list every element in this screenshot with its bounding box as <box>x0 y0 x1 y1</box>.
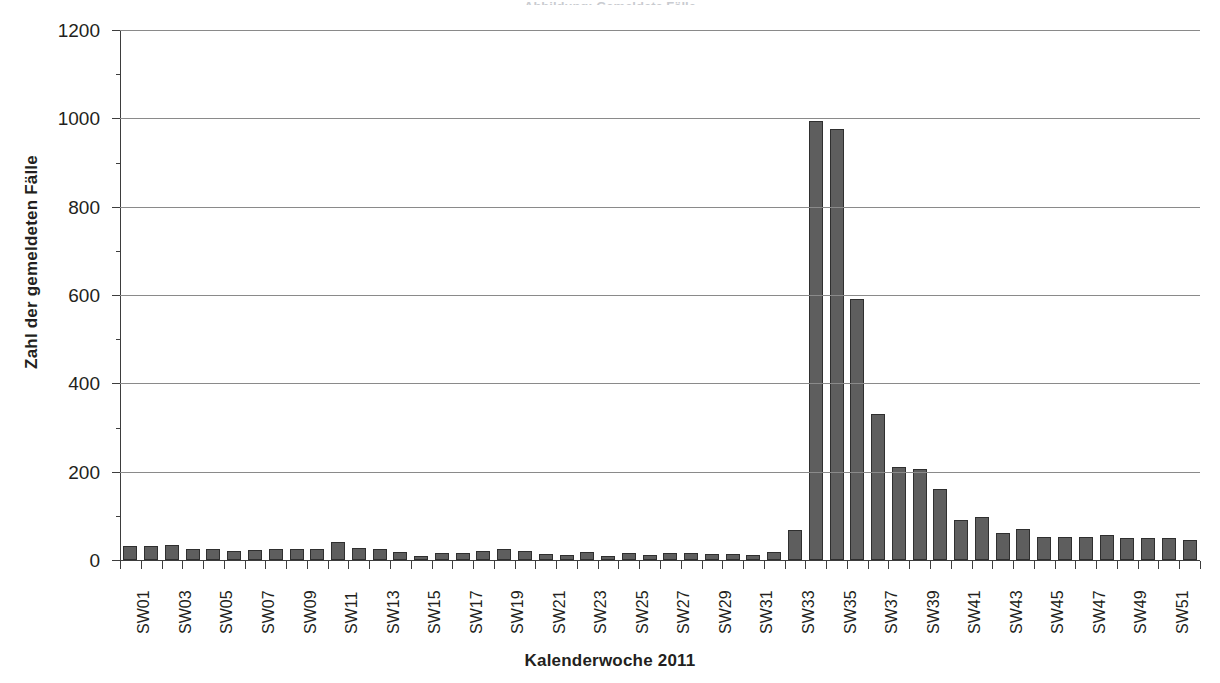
x-axis-tick <box>743 561 744 569</box>
gridline <box>120 30 1200 31</box>
bar <box>850 299 864 560</box>
x-axis-tick <box>1200 561 1201 569</box>
x-axis-tick-label: SW09 <box>303 564 319 634</box>
y-axis-minor-tick <box>116 74 120 75</box>
x-axis-tick <box>120 561 121 569</box>
x-axis-tick <box>1158 561 1159 569</box>
gridline <box>120 383 1200 384</box>
bar <box>248 550 262 560</box>
bar <box>518 551 532 560</box>
y-axis-tick-label: 400 <box>0 374 100 393</box>
y-axis-minor-tick <box>116 163 120 164</box>
plot-area <box>120 30 1200 561</box>
bar <box>1100 535 1114 560</box>
bar <box>123 546 137 560</box>
y-axis-tick-labels: 020040060080010001200 <box>0 30 112 561</box>
bar <box>1162 538 1176 560</box>
x-axis-tick <box>702 561 703 569</box>
bar <box>913 469 927 560</box>
y-axis-tick <box>112 560 120 561</box>
x-axis-tick <box>203 561 204 569</box>
bar <box>809 121 823 560</box>
bar <box>539 554 553 560</box>
gridline <box>120 207 1200 208</box>
bar <box>393 552 407 560</box>
x-axis-tick-label: SW45 <box>1050 564 1066 634</box>
bar <box>227 551 241 560</box>
x-axis-tick-label: SW05 <box>219 564 235 634</box>
y-axis-tick-label: 1000 <box>0 109 100 128</box>
y-axis-tick <box>112 383 120 384</box>
bar <box>435 553 449 560</box>
x-axis-tick <box>868 561 869 569</box>
bar <box>1141 538 1155 560</box>
x-axis-tick <box>162 561 163 569</box>
y-axis-tick <box>112 30 120 31</box>
x-axis-tick <box>245 561 246 569</box>
gridline <box>120 295 1200 296</box>
x-axis-tick-label: SW35 <box>843 564 859 634</box>
x-axis-title: Kalenderwoche 2011 <box>0 651 1220 671</box>
x-axis-tick-label: SW43 <box>1009 564 1025 634</box>
bar <box>206 549 220 560</box>
x-axis-tick-label: SW29 <box>718 564 734 634</box>
x-axis-tick <box>660 561 661 569</box>
y-axis-tick <box>112 207 120 208</box>
bar <box>892 467 906 560</box>
x-axis-tick <box>411 561 412 569</box>
x-axis-tick <box>286 561 287 569</box>
y-axis-tick-label: 1200 <box>0 21 100 40</box>
x-axis-tick <box>618 561 619 569</box>
bar <box>269 549 283 560</box>
x-axis-tick-label: SW31 <box>759 564 775 634</box>
bar <box>954 520 968 560</box>
bar <box>871 414 885 560</box>
bar <box>933 489 947 560</box>
bar <box>767 552 781 560</box>
bar <box>830 129 844 560</box>
bar <box>746 555 760 560</box>
x-axis-tick-label: SW19 <box>510 564 526 634</box>
x-axis-tick <box>1075 561 1076 569</box>
x-axis-tick <box>1117 561 1118 569</box>
y-axis-tick <box>112 295 120 296</box>
x-axis-tick-label: SW27 <box>676 564 692 634</box>
x-axis-tick-label: SW25 <box>635 564 651 634</box>
y-axis-tick-label: 0 <box>0 551 100 570</box>
x-axis-tick-label: SW39 <box>926 564 942 634</box>
y-axis-tick <box>112 472 120 473</box>
x-axis-ticks <box>120 561 1200 570</box>
bar <box>705 554 719 560</box>
bar <box>975 517 989 560</box>
x-axis-tick-label: SW07 <box>261 564 277 634</box>
x-axis-tick <box>452 561 453 569</box>
bar <box>331 542 345 560</box>
x-axis-tick <box>909 561 910 569</box>
x-axis-tick-label: SW33 <box>801 564 817 634</box>
x-axis-tick <box>535 561 536 569</box>
y-axis-tick-label: 600 <box>0 286 100 305</box>
y-axis-tick-label: 800 <box>0 198 100 217</box>
x-axis-tick <box>785 561 786 569</box>
bar <box>476 551 490 560</box>
gridline <box>120 472 1200 473</box>
x-axis-tick-label: SW13 <box>386 564 402 634</box>
bar <box>996 533 1010 560</box>
bar <box>788 530 802 560</box>
bar <box>1037 537 1051 560</box>
x-axis-tick-label: SW15 <box>427 564 443 634</box>
x-axis-tick-label: SW41 <box>967 564 983 634</box>
bar <box>643 555 657 560</box>
bar <box>144 546 158 560</box>
y-axis-tick <box>112 118 120 119</box>
x-axis-tick-label: SW23 <box>593 564 609 634</box>
x-axis-tick <box>1034 561 1035 569</box>
y-axis-minor-tick <box>116 428 120 429</box>
bar <box>1183 540 1197 560</box>
y-axis-tick-label: 200 <box>0 463 100 482</box>
y-axis-minor-tick <box>116 339 120 340</box>
bar <box>414 556 428 560</box>
x-axis-tick-label: SW03 <box>178 564 194 634</box>
gridline <box>120 118 1200 119</box>
bar <box>726 554 740 560</box>
